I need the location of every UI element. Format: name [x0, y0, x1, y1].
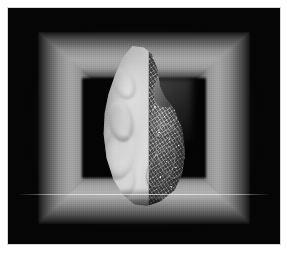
- right-rim-shading: [179, 46, 190, 206]
- specimen-half-textured: [149, 46, 190, 206]
- floor-highlight-line: [18, 194, 270, 195]
- floor-highlight-line-secondary: [44, 197, 244, 198]
- cut-plane: [148, 46, 149, 206]
- organ-silhouette: [94, 46, 190, 206]
- render-canvas: [8, 8, 280, 244]
- figure-title: Volume-rendered anatomical specimen with…: [0, 21, 1, 22]
- specimen-half-smooth: [94, 46, 149, 206]
- left-rim-shading: [94, 46, 106, 206]
- specimen: [94, 46, 190, 206]
- surface-groove: [107, 65, 139, 103]
- vessel-stump-lobe: [154, 75, 175, 107]
- figure-root: Volume-rendered anatomical specimen with…: [0, 0, 287, 260]
